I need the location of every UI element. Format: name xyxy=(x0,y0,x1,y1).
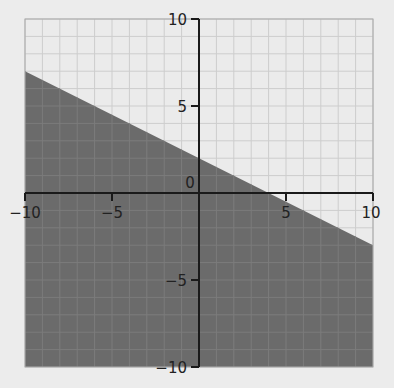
x-tick-label: −10 xyxy=(9,204,41,222)
y-tick-label: 10 xyxy=(168,11,187,29)
x-tick-label: 0 xyxy=(185,174,195,192)
y-tick-label: −10 xyxy=(155,359,187,377)
y-tick-label: 5 xyxy=(177,98,187,116)
x-tick-label: 10 xyxy=(361,204,380,222)
inequality-graph: −10−50510−10−5510 xyxy=(0,0,394,388)
plot-area: −10−50510−10−5510 xyxy=(9,11,380,377)
x-tick-label: −5 xyxy=(101,204,123,222)
x-tick-label: 5 xyxy=(281,204,291,222)
y-tick-label: −5 xyxy=(165,272,187,290)
